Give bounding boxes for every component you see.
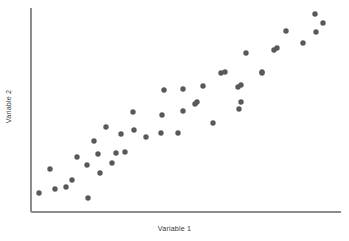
- data-point: [300, 40, 305, 45]
- data-point: [259, 69, 264, 74]
- data-point: [274, 45, 279, 50]
- data-point: [118, 131, 123, 136]
- data-point: [158, 130, 163, 135]
- data-point: [180, 108, 185, 113]
- data-point: [36, 190, 41, 195]
- data-point: [210, 120, 215, 125]
- y-axis-label-container: Variable 2: [0, 0, 18, 213]
- data-points-group: [36, 11, 325, 200]
- x-axis-label: Variable 1: [0, 224, 349, 233]
- data-point: [131, 127, 136, 132]
- data-point: [143, 134, 148, 139]
- data-point: [238, 99, 243, 104]
- data-point: [122, 149, 127, 154]
- data-point: [313, 29, 318, 34]
- data-point: [103, 124, 108, 129]
- data-point: [95, 151, 100, 156]
- y-axis-label: Variable 2: [5, 90, 14, 123]
- data-point: [175, 130, 180, 135]
- axis-lines: [31, 8, 341, 212]
- scatter-plot-figure: Variable 2 Variable 1: [0, 0, 349, 241]
- data-point: [320, 20, 325, 25]
- data-point: [74, 154, 79, 159]
- data-point: [243, 50, 248, 55]
- data-point: [113, 150, 118, 155]
- data-point: [161, 87, 166, 92]
- data-point: [194, 99, 199, 104]
- data-point: [91, 138, 96, 143]
- data-point: [236, 106, 241, 111]
- data-point: [63, 184, 68, 189]
- data-point: [180, 86, 185, 91]
- data-point: [47, 166, 52, 171]
- data-point: [159, 112, 164, 117]
- data-point: [109, 160, 114, 165]
- data-point: [69, 177, 74, 182]
- data-point: [97, 170, 102, 175]
- data-point: [222, 69, 227, 74]
- data-point: [130, 109, 135, 114]
- plot-canvas: [0, 0, 349, 241]
- data-point: [283, 28, 288, 33]
- data-point: [200, 83, 205, 88]
- data-point: [312, 11, 317, 16]
- data-point: [52, 186, 57, 191]
- data-point: [85, 195, 90, 200]
- data-point: [84, 162, 89, 167]
- data-point: [238, 82, 243, 87]
